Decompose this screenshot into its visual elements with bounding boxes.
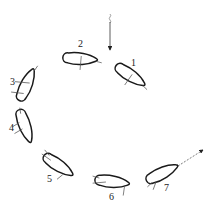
- blade-label-4: 4: [9, 122, 14, 133]
- blade-7: [142, 161, 182, 192]
- blade-label-2: 2: [78, 38, 83, 49]
- blade-label-3: 3: [10, 76, 15, 87]
- blade-label-1: 1: [131, 57, 136, 68]
- blade-2: [62, 51, 103, 71]
- blade-rotation-diagram: 1 2 3 4 5 6 7: [0, 0, 211, 215]
- blade-5: [35, 149, 76, 185]
- blade-label-7: 7: [164, 182, 169, 193]
- blade-label-5: 5: [47, 173, 52, 184]
- outgoing-flow-arrow: [178, 150, 203, 166]
- blade-label-6: 6: [109, 191, 114, 202]
- incoming-flow-arrow: [109, 14, 111, 50]
